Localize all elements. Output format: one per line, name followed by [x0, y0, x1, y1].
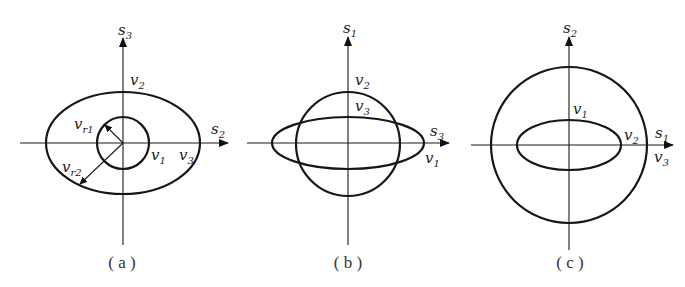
caption-b: ( b ) [334, 253, 362, 272]
label-v1: v1 [151, 146, 166, 166]
label-vr1: vr1 [74, 115, 94, 135]
label-v3: v3 [654, 148, 669, 168]
axis-label-s2: s2 [211, 120, 225, 140]
axis-label-s3: s3 [118, 21, 132, 41]
radius-arrow-vr1 [105, 125, 123, 143]
axis-label-s3: s3 [430, 122, 444, 142]
axis-label-s1: s1 [343, 19, 357, 39]
radius-arrow-vr2 [80, 143, 123, 184]
caption-a: ( a ) [108, 253, 135, 272]
label-v2: v2 [130, 71, 145, 91]
label-v3: v3 [179, 146, 194, 166]
label-vr2: vr2 [62, 158, 82, 178]
label-v1: v1 [425, 149, 440, 169]
axis-label-s2: s2 [563, 19, 577, 39]
label-v1: v1 [573, 100, 588, 120]
label-v3: v3 [355, 97, 370, 117]
panel-b: s1 s3 v2 v3 v1 ( b ) [247, 19, 449, 272]
label-v2: v2 [355, 71, 370, 91]
caption-c: ( c ) [556, 253, 583, 272]
slowness-surface-figure: s3 s2 v2 v1 v3 vr1 vr2 ( a ) s1 s3 v2 v3… [0, 0, 685, 287]
panel-a: s3 s2 v2 v1 v3 vr1 vr2 ( a ) [20, 21, 228, 272]
panel-c: s2 s1 v1 v2 v3 ( c ) [471, 19, 673, 272]
label-v2: v2 [624, 126, 639, 146]
axis-label-s1: s1 [655, 124, 669, 144]
